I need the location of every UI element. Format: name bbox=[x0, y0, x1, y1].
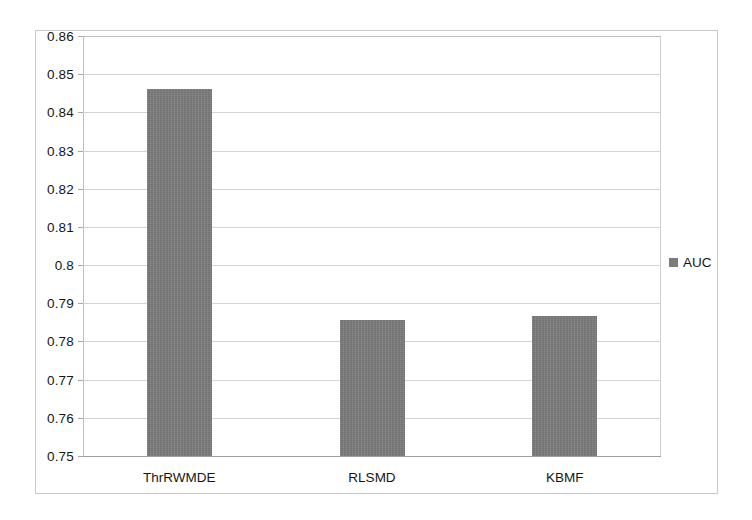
x-axis-label: RLSMD bbox=[348, 470, 395, 485]
y-axis-tick bbox=[78, 36, 83, 37]
y-axis-label: 0.78 bbox=[47, 334, 74, 349]
y-axis-label: 0.82 bbox=[47, 181, 74, 196]
y-axis-tick bbox=[78, 380, 83, 381]
y-axis-tick bbox=[78, 151, 83, 152]
y-axis-label: 0.76 bbox=[47, 410, 74, 425]
y-axis-tick bbox=[78, 74, 83, 75]
legend: AUC bbox=[669, 256, 712, 270]
y-axis-label: 0.83 bbox=[47, 143, 74, 158]
bar bbox=[340, 320, 405, 456]
y-axis-tick bbox=[78, 303, 83, 304]
x-axis-label: KBMF bbox=[546, 470, 584, 485]
y-axis-label: 0.79 bbox=[47, 296, 74, 311]
y-axis-tick bbox=[78, 265, 83, 266]
y-axis-label: 0.81 bbox=[47, 219, 74, 234]
x-axis-label: ThrRWMDE bbox=[143, 470, 216, 485]
y-axis-tick bbox=[78, 341, 83, 342]
legend-label-auc: AUC bbox=[683, 256, 712, 270]
bar bbox=[532, 316, 597, 457]
gridline bbox=[83, 36, 661, 37]
y-axis-tick bbox=[78, 227, 83, 228]
gridline bbox=[83, 456, 661, 457]
y-axis-label: 0.86 bbox=[47, 29, 74, 44]
chart-frame: 0.860.850.840.830.820.810.80.790.780.770… bbox=[35, 30, 718, 494]
plot-right-border bbox=[660, 36, 661, 456]
legend-swatch-auc bbox=[669, 258, 678, 267]
bar bbox=[147, 89, 212, 456]
y-axis-line bbox=[83, 36, 84, 456]
y-axis-tick bbox=[78, 189, 83, 190]
y-axis-tick bbox=[78, 418, 83, 419]
y-axis-label: 0.85 bbox=[47, 67, 74, 82]
y-axis-label: 0.84 bbox=[47, 105, 74, 120]
y-axis-tick bbox=[78, 456, 83, 457]
y-axis-label: 0.8 bbox=[55, 258, 74, 273]
y-axis-tick bbox=[78, 112, 83, 113]
plot-area: 0.860.850.840.830.820.810.80.790.780.770… bbox=[83, 36, 661, 456]
y-axis-label: 0.77 bbox=[47, 372, 74, 387]
y-axis-label: 0.75 bbox=[47, 449, 74, 464]
gridline bbox=[83, 74, 661, 75]
